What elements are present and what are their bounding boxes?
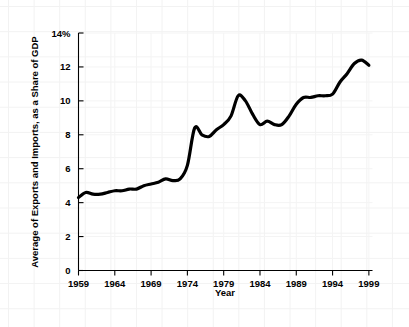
y-tick-label: 6	[65, 163, 70, 174]
chart-container: 02468101214% 195919641969197419791984198…	[0, 0, 409, 327]
y-tick-label: 4	[65, 197, 71, 208]
x-tick-label: 1964	[104, 278, 126, 289]
y-tick-label: 12	[60, 61, 71, 72]
x-tick-label: 1959	[68, 278, 89, 289]
x-tick-label: 1999	[358, 278, 379, 289]
plot-gridlines	[79, 33, 373, 271]
y-tick-label: 0	[65, 265, 70, 276]
line-chart: 02468101214% 195919641969197419791984198…	[0, 0, 409, 327]
chart-screenshot: 02468101214% 195919641969197419791984198…	[0, 0, 409, 327]
x-tick-label: 1994	[322, 278, 344, 289]
x-tick-label: 1984	[249, 278, 271, 289]
x-tick-label: 1989	[286, 278, 307, 289]
x-axis-title: Year	[215, 287, 235, 298]
x-axis-ticks: 195919641969197419791984198919941999	[68, 271, 380, 289]
y-tick-label: 10	[60, 95, 71, 106]
y-tick-label: 2	[65, 231, 70, 242]
y-tick-label: 8	[65, 129, 70, 140]
y-tick-label: 14%	[51, 28, 71, 39]
x-tick-label: 1974	[177, 278, 199, 289]
x-tick-label: 1969	[141, 278, 162, 289]
y-axis-title: Average of Exports and Imports, as a Sha…	[29, 36, 40, 268]
